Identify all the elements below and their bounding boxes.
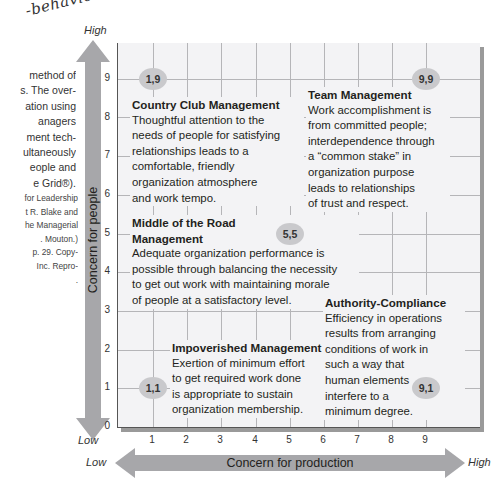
source-line: for Leadership xyxy=(0,192,78,206)
y-tick: 7 xyxy=(96,149,110,160)
style-desc-line: is appropriate to sustain xyxy=(172,387,322,403)
y-axis-label: Concern for people xyxy=(86,187,100,293)
style-title: Country Club Management xyxy=(132,97,302,113)
style-desc-line: such a way that xyxy=(325,357,463,373)
y-tick: 5 xyxy=(96,227,110,238)
y-tick: 0 xyxy=(96,420,110,431)
style-desc-line: organization purpose xyxy=(308,165,448,181)
source-line: Inc. Repro- xyxy=(0,260,78,274)
style-desc-line: Thoughtful attention to the xyxy=(132,113,302,129)
y-axis-high-label: High xyxy=(84,24,107,36)
style-desc-line: relationships leads to a xyxy=(132,144,302,160)
country-club-management-box: Country Club Management Thoughtful atten… xyxy=(130,97,304,206)
x-tick: 2 xyxy=(179,434,193,445)
style-title: Authority-Compliance xyxy=(325,295,463,311)
source-line: . Mouton.) xyxy=(0,233,78,247)
style-desc-line: Exertion of minimum effort xyxy=(172,356,322,372)
y-tick: 3 xyxy=(96,304,110,315)
style-desc-line: a “common stake” in xyxy=(308,149,448,165)
style-desc-line: leads to relationships xyxy=(308,181,448,197)
style-desc-line: comfortable, friendly xyxy=(132,159,302,175)
y-tick: 8 xyxy=(96,111,110,122)
x-tick: 9 xyxy=(418,434,432,445)
style-desc-line: to get required work done xyxy=(172,371,322,387)
point-5-5: 5,5 xyxy=(276,223,304,245)
impoverished-management-box: Impoverished Management Exertion of mini… xyxy=(170,340,324,418)
source-line: t R. Blake and xyxy=(0,206,78,220)
x-tick: 5 xyxy=(282,434,296,445)
style-desc-line: human elements xyxy=(325,373,463,389)
x-axis-high-label: High xyxy=(468,456,491,468)
style-title: Middle of the Road xyxy=(132,215,357,231)
style-desc-line: conditions of work in xyxy=(325,342,463,358)
style-desc-line: of trust and respect. xyxy=(308,196,448,212)
side-caption-line: ultaneously xyxy=(0,145,76,160)
handwritten-note: -behavioral xyxy=(24,0,117,20)
style-desc-line: interfere to a xyxy=(325,389,463,405)
side-caption-line: anagers xyxy=(0,114,76,129)
side-caption-line: ation using xyxy=(0,99,76,114)
y-axis-low-label: Low xyxy=(78,434,98,446)
style-desc-line: Efficiency in operations xyxy=(325,311,463,327)
grid-plot-area: Country Club Management Thoughtful atten… xyxy=(117,43,480,428)
source-line: he Managerial xyxy=(0,219,78,233)
point-1-1: 1,1 xyxy=(139,377,167,399)
style-title: Impoverished Management xyxy=(172,340,322,356)
x-axis-label: Concern for production xyxy=(115,448,465,478)
style-desc-line: results from arranging xyxy=(325,326,463,342)
x-tick: 8 xyxy=(384,434,398,445)
y-tick: 1 xyxy=(96,381,110,392)
y-axis-label-wrap: Concern for people xyxy=(76,40,110,440)
side-caption-line: e Grid®). xyxy=(0,176,76,191)
y-tick: 9 xyxy=(96,72,110,83)
point-9-1: 9,1 xyxy=(412,377,440,399)
x-tick: 4 xyxy=(248,434,262,445)
style-desc-line: Adequate organization performance is xyxy=(132,246,357,262)
y-tick: 4 xyxy=(96,265,110,276)
y-tick: 6 xyxy=(96,188,110,199)
side-caption-line: method of xyxy=(0,68,76,83)
style-desc-line: from committed people; xyxy=(308,118,448,134)
style-desc-line: organization membership. xyxy=(172,402,322,418)
point-1-9: 1,9 xyxy=(139,68,167,90)
style-desc-line: interdependence through xyxy=(308,134,448,150)
side-caption-line: ment tech- xyxy=(0,130,76,145)
x-tick: 3 xyxy=(213,434,227,445)
style-desc-line: Work accomplishment is xyxy=(308,103,448,119)
side-caption-line: s. The over- xyxy=(0,83,76,98)
x-tick: 1 xyxy=(145,434,159,445)
x-tick: 6 xyxy=(316,434,330,445)
style-desc-line: possible through balancing the necessity xyxy=(132,262,357,278)
point-9-9: 9,9 xyxy=(412,68,440,90)
side-source-text: for Leadership t R. Blake and he Manager… xyxy=(0,192,78,287)
style-desc-line: to get out work with maintaining morale xyxy=(132,277,357,293)
x-tick: 7 xyxy=(350,434,364,445)
x-axis-low-label: Low xyxy=(86,456,106,468)
team-management-box: Team Management Work accomplishment is f… xyxy=(306,87,450,212)
side-caption-line: eople and xyxy=(0,160,76,175)
style-desc-line: needs of people for satisfying xyxy=(132,128,302,144)
source-line: . xyxy=(0,274,78,288)
style-title: Management xyxy=(132,231,357,247)
source-line: p. 29. Copy- xyxy=(0,246,78,260)
style-desc-line: and work tempo. xyxy=(132,191,302,207)
style-desc-line: minimum degree. xyxy=(325,404,463,420)
style-desc-line: organization atmosphere xyxy=(132,175,302,191)
y-tick: 2 xyxy=(96,343,110,354)
side-caption-text: method of s. The over- ation using anage… xyxy=(0,68,76,191)
authority-compliance-box: Authority-Compliance Efficiency in opera… xyxy=(323,295,465,420)
